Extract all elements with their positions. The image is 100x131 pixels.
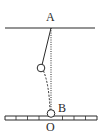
displaced-bob (37, 64, 45, 72)
point-a-label: A (46, 11, 55, 23)
pendulum-diagram: ) A B O (0, 0, 100, 131)
swing-path (44, 71, 51, 110)
pendulum-string (42, 28, 51, 65)
rest-bob (47, 110, 55, 118)
point-b-label: B (58, 102, 66, 114)
point-o-label: O (46, 121, 55, 131)
